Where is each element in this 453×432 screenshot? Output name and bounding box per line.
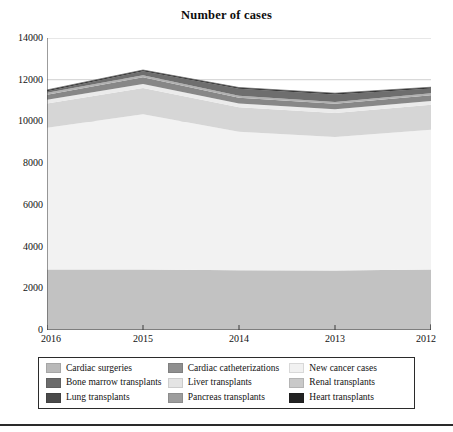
legend-item-label: Heart transplants: [309, 392, 374, 403]
x-axis-labels: 20162015201420132012: [0, 333, 453, 349]
legend-item[interactable]: Pancreas transplants: [168, 390, 288, 405]
legend-swatch-icon: [168, 378, 183, 388]
x-axis-tick-label: 2013: [325, 333, 345, 345]
chart-title: Number of cases: [0, 8, 453, 23]
y-axis-tick-label: 8000: [1, 158, 47, 168]
legend-item-label: New cancer cases: [309, 363, 377, 374]
legend-item-label: Liver transplants: [188, 377, 252, 388]
y-axis-tick-label: 12000: [1, 75, 47, 85]
chart-figure: Number of cases 020004000600080001000012…: [0, 0, 453, 432]
x-axis-tick-label: 2016: [41, 333, 61, 345]
area-series: [47, 270, 431, 330]
y-axis-tick-label: 10000: [1, 116, 47, 126]
legend-item-label: Bone marrow transplants: [66, 377, 162, 388]
chart-legend: Cardiac surgeriesCardiac catheterization…: [38, 357, 415, 409]
plot-area: [47, 38, 431, 330]
legend-swatch-icon: [168, 363, 183, 373]
y-axis-tick-label: 6000: [1, 200, 47, 210]
legend-item[interactable]: Lung transplants: [46, 390, 166, 405]
legend-item-label: Renal transplants: [309, 377, 375, 388]
legend-swatch-icon: [289, 378, 304, 388]
legend-item[interactable]: Cardiac catheterizations: [168, 361, 288, 376]
legend-swatch-icon: [289, 363, 304, 373]
legend-item-label: Cardiac surgeries: [66, 363, 132, 374]
x-axis-tick-label: 2012: [416, 333, 436, 345]
legend-item[interactable]: Heart transplants: [289, 390, 409, 405]
footer-divider: [0, 424, 453, 426]
y-axis-tick-label: 4000: [1, 242, 47, 252]
area-series: [47, 114, 431, 270]
legend-swatch-icon: [168, 393, 183, 403]
legend-swatch-icon: [46, 393, 61, 403]
legend-swatch-icon: [46, 378, 61, 388]
y-axis-tick-label: 2000: [1, 283, 47, 293]
legend-item[interactable]: New cancer cases: [289, 361, 409, 376]
legend-item[interactable]: Cardiac surgeries: [46, 361, 166, 376]
stacked-area-plot: [47, 38, 431, 330]
x-axis-tick-label: 2015: [133, 333, 153, 345]
x-axis-tick-label: 2014: [229, 333, 249, 345]
legend-item[interactable]: Renal transplants: [289, 376, 409, 391]
legend-item-label: Cardiac catheterizations: [188, 363, 280, 374]
legend-swatch-icon: [289, 393, 304, 403]
legend-item[interactable]: Liver transplants: [168, 376, 288, 391]
legend-item[interactable]: Bone marrow transplants: [46, 376, 166, 391]
legend-item-label: Lung transplants: [66, 392, 130, 403]
y-axis-tick-label: 14000: [1, 33, 47, 43]
legend-swatch-icon: [46, 363, 61, 373]
legend-item-label: Pancreas transplants: [188, 392, 265, 403]
